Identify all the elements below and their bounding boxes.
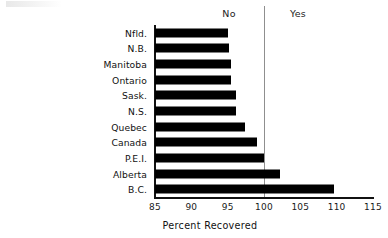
- category-label: Canada: [111, 137, 147, 148]
- bar: [155, 107, 236, 116]
- bar: [155, 138, 257, 147]
- category-label: Manitoba: [104, 59, 147, 70]
- bar: [155, 75, 231, 84]
- x-axis-title: Percent Recovered: [0, 220, 388, 231]
- category-label: N.S.: [128, 106, 147, 117]
- category-label: Nfld.: [125, 27, 147, 38]
- x-tick-label: 100: [255, 202, 273, 212]
- category-label: Quebec: [111, 121, 147, 132]
- bar: [155, 185, 334, 194]
- x-tick-label: 90: [185, 202, 197, 212]
- percent-recovered-bar-chart: No Yes Nfld.N.B.ManitobaOntarioSask.N.S.…: [0, 0, 388, 238]
- bar: [155, 28, 228, 37]
- category-label: B.C.: [128, 184, 147, 195]
- scan-artifact: [6, 1, 62, 7]
- annotation-yes: Yes: [290, 8, 306, 19]
- category-label: Alberta: [113, 168, 147, 179]
- bar: [155, 122, 245, 131]
- bar: [155, 169, 280, 178]
- x-tick-label: 95: [222, 202, 234, 212]
- category-label: Ontario: [112, 74, 147, 85]
- x-tick-label: 110: [328, 202, 346, 212]
- category-label: P.E.I.: [125, 152, 147, 163]
- category-label: Sask.: [122, 90, 147, 101]
- category-label: N.B.: [128, 43, 147, 54]
- annotation-no: No: [222, 8, 235, 19]
- x-axis-line: [154, 197, 374, 199]
- x-tick-label: 115: [364, 202, 382, 212]
- bar: [155, 153, 264, 162]
- x-tick-label: 85: [149, 202, 161, 212]
- bar: [155, 44, 229, 53]
- x-axis-tick-labels: 859095100105110115: [155, 202, 373, 216]
- bar: [155, 91, 236, 100]
- x-axis: [155, 197, 373, 199]
- bar: [155, 60, 231, 69]
- y-axis-category-labels: Nfld.N.B.ManitobaOntarioSask.N.S.QuebecC…: [0, 25, 151, 197]
- x-axis-title-text: Percent Recovered: [163, 220, 258, 231]
- plot-area: [155, 25, 373, 197]
- x-tick-label: 105: [291, 202, 309, 212]
